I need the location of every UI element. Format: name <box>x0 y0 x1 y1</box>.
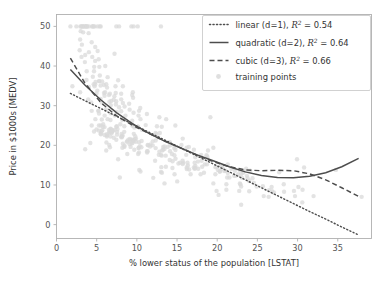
training-point <box>179 143 183 147</box>
training-point <box>144 123 148 127</box>
training-point <box>192 147 196 151</box>
training-point <box>98 83 102 87</box>
training-point <box>247 189 251 193</box>
training-point <box>119 92 123 96</box>
training-point <box>99 129 103 133</box>
training-point <box>119 132 123 136</box>
training-point <box>112 52 116 56</box>
training-point <box>93 59 97 63</box>
training-point <box>239 184 243 188</box>
training-point <box>102 125 106 129</box>
training-point <box>117 24 121 28</box>
training-point <box>88 141 92 145</box>
training-point <box>292 189 296 193</box>
training-point <box>83 53 87 57</box>
training-point <box>81 30 85 34</box>
training-point <box>74 24 78 28</box>
legend-marker-point <box>216 74 221 79</box>
training-point <box>68 24 72 28</box>
training-point <box>90 109 94 113</box>
training-point <box>311 194 315 198</box>
training-point <box>211 181 215 185</box>
training-point <box>117 105 121 109</box>
training-point <box>107 93 111 97</box>
x-tick-label: 25 <box>252 243 262 253</box>
training-point <box>225 175 229 179</box>
training-point <box>153 131 157 135</box>
training-point <box>119 109 123 113</box>
training-point <box>92 129 96 133</box>
training-point <box>127 102 131 106</box>
training-point <box>138 117 142 121</box>
x-tick-label: 15 <box>172 243 182 253</box>
training-point <box>184 153 188 157</box>
training-point <box>159 24 163 28</box>
training-point <box>105 132 109 136</box>
training-point <box>282 182 286 186</box>
training-point <box>216 193 220 197</box>
training-point <box>168 149 172 153</box>
training-point <box>175 179 179 183</box>
training-point <box>111 129 115 133</box>
training-point <box>118 175 122 179</box>
training-point <box>151 176 155 180</box>
training-point <box>122 124 126 128</box>
training-point <box>164 153 168 157</box>
training-point <box>159 153 163 157</box>
training-point <box>97 111 101 115</box>
training-point <box>203 162 207 166</box>
training-point <box>93 117 97 121</box>
training-point <box>155 124 159 128</box>
training-point <box>116 78 120 82</box>
training-point <box>296 185 300 189</box>
training-point <box>78 90 82 94</box>
training-point <box>136 152 140 156</box>
training-point <box>97 79 101 83</box>
training-point <box>90 55 94 59</box>
training-point <box>133 134 137 138</box>
training-point <box>161 145 165 149</box>
training-point <box>196 159 200 163</box>
legend-label: linear (d=1), R2 = 0.54 <box>236 20 333 30</box>
x-axis-title: % lower status of the population [LSTAT] <box>129 258 299 268</box>
training-point <box>208 115 212 119</box>
training-point <box>77 48 81 52</box>
training-point <box>170 166 174 170</box>
y-tick-label: 10 <box>40 180 50 190</box>
training-point <box>266 195 270 199</box>
training-point <box>104 148 108 152</box>
training-point <box>302 165 306 169</box>
training-point <box>224 182 228 186</box>
training-point <box>158 131 162 135</box>
legend-label: training points <box>236 72 297 82</box>
training-point <box>93 82 97 86</box>
training-point <box>300 188 304 192</box>
training-point <box>237 189 241 193</box>
training-point <box>214 189 218 193</box>
training-point <box>83 60 87 64</box>
training-point <box>103 64 107 68</box>
training-point <box>216 168 220 172</box>
training-point <box>198 172 202 176</box>
training-point <box>127 107 131 111</box>
training-point <box>125 152 129 156</box>
training-point <box>99 24 103 28</box>
training-point <box>85 69 89 73</box>
training-point <box>91 75 95 79</box>
training-point <box>97 65 101 69</box>
y-tick-label: 20 <box>40 140 50 150</box>
training-point <box>145 112 149 116</box>
training-point <box>131 111 135 115</box>
training-point <box>113 84 117 88</box>
training-point <box>137 109 141 113</box>
training-point <box>129 141 133 145</box>
training-point <box>172 172 176 176</box>
training-point <box>87 50 91 54</box>
training-point <box>188 172 192 176</box>
legend-box: linear (d=1), R2 = 0.54quadratic (d=2), … <box>203 16 371 91</box>
training-point <box>92 69 96 73</box>
y-axis-title: Price in $1000s [MEDV] <box>8 77 18 175</box>
training-point <box>100 117 104 121</box>
x-tick-label: 10 <box>132 243 142 253</box>
training-point <box>136 24 140 28</box>
